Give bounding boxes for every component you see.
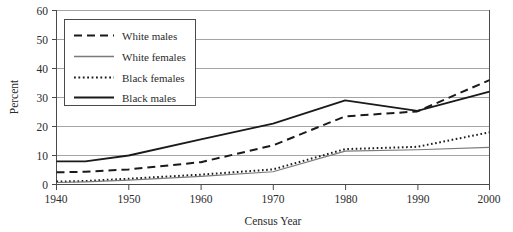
chart-figure: 60 50 40 30 20 10 0 1940 1950 1960 1970 … xyxy=(0,0,513,232)
ytick-label-10: 10 xyxy=(37,150,49,162)
line-chart: 60 50 40 30 20 10 0 1940 1950 1960 1970 … xyxy=(0,0,513,232)
ytick-label-50: 50 xyxy=(37,34,49,46)
y-tick-labels: 60 50 40 30 20 10 0 xyxy=(37,5,49,191)
xtick-label-1970: 1970 xyxy=(262,193,285,205)
xtick-label-2000: 2000 xyxy=(478,193,501,205)
xtick-label-1940: 1940 xyxy=(45,193,68,205)
series-line-white-females xyxy=(57,147,490,182)
legend-label-black-males: Black males xyxy=(122,92,176,104)
legend-label-black-females: Black females xyxy=(122,72,185,84)
x-tick-labels: 1940 1950 1960 1970 1980 1990 2000 xyxy=(45,193,501,205)
x-axis-title: Census Year xyxy=(245,215,302,227)
ytick-label-60: 60 xyxy=(37,5,49,17)
ytick-label-40: 40 xyxy=(37,63,49,75)
y-tick-marks xyxy=(52,11,56,185)
ytick-label-20: 20 xyxy=(37,121,49,133)
x-tick-marks xyxy=(57,185,490,190)
xtick-label-1950: 1950 xyxy=(118,193,141,205)
legend-label-white-males: White males xyxy=(122,30,177,42)
ytick-label-30: 30 xyxy=(37,92,49,104)
ytick-label-0: 0 xyxy=(42,179,48,191)
xtick-label-1990: 1990 xyxy=(407,193,430,205)
chart-legend: White males White females Black females … xyxy=(65,20,196,106)
xtick-label-1980: 1980 xyxy=(335,193,358,205)
legend-label-white-females: White females xyxy=(122,51,186,63)
y-axis-title: Percent xyxy=(8,79,20,114)
xtick-label-1960: 1960 xyxy=(190,193,213,205)
